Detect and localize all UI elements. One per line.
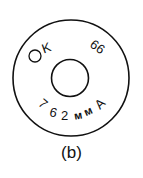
marking-6: 6 <box>48 104 59 120</box>
center-hole <box>52 60 89 97</box>
marking-m2: м <box>82 104 94 118</box>
marking-a: A <box>92 95 109 112</box>
marking-66: 66 <box>87 36 107 57</box>
marking-k: K <box>40 39 54 56</box>
small-circle-mark-icon <box>29 50 41 62</box>
marking-m1: м <box>73 108 83 121</box>
outer-ring <box>13 20 129 136</box>
marking-2: 2 <box>61 108 68 123</box>
figure-caption: (b) <box>0 143 143 163</box>
marking-7: 7 <box>36 96 51 112</box>
